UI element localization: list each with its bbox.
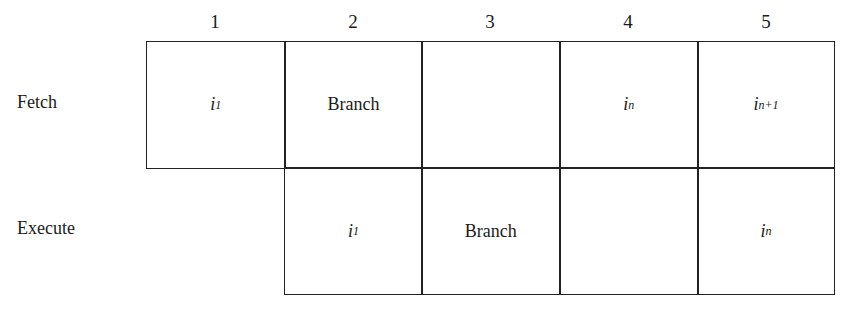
column-number-3: 3 <box>421 11 559 33</box>
row-label-execute: Execute <box>17 218 75 239</box>
execute-cell-2: i1 <box>284 167 423 295</box>
fetch-cell-2: Branch <box>284 41 423 169</box>
column-number-1: 1 <box>146 11 284 33</box>
cell-text: Branch <box>328 94 380 115</box>
row-label-fetch: Fetch <box>17 92 57 113</box>
execute-cell-3: Branch <box>421 167 561 295</box>
column-number-4: 4 <box>559 11 697 33</box>
execute-cell-4 <box>559 167 699 295</box>
instruction-base: i <box>760 221 765 242</box>
execute-cell-5: in <box>697 167 835 295</box>
cell-text: Branch <box>465 221 517 242</box>
fetch-cell-4: in <box>559 41 699 169</box>
column-number-5: 5 <box>697 11 835 33</box>
column-number-2: 2 <box>284 11 422 33</box>
fetch-cell-3 <box>421 41 561 169</box>
fetch-cell-1: i1 <box>146 41 286 169</box>
fetch-cell-5: in+1 <box>697 41 835 169</box>
